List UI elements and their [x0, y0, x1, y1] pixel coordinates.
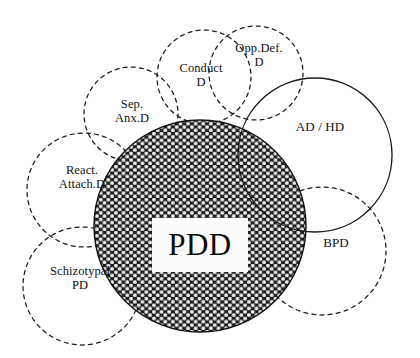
comorbidity-venn-diagram: PDD Sep. Anx.D Conduct D Opp.Def. D AD /… — [0, 0, 420, 358]
venn-circles-canvas — [0, 0, 420, 358]
pdd-label: PDD — [152, 218, 248, 272]
conduct-d-circle[interactable] — [157, 30, 251, 124]
